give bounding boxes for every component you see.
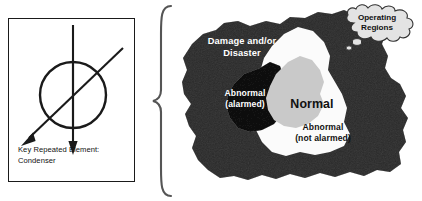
operating-regions-thought-cloud: Operating Regions — [338, 2, 422, 52]
thought-cloud-shape — [338, 2, 422, 52]
cloud-bumps — [347, 5, 413, 42]
cloud-tail-bubbles — [346, 39, 362, 51]
grouping-brace — [150, 4, 174, 198]
key-caption-line-1: Key Repeated Element: — [18, 145, 130, 156]
brace-path — [153, 6, 171, 196]
figure-root: Key Repeated Element: Condenser — [0, 0, 422, 201]
diagonal-flow-arrowhead — [21, 133, 36, 146]
key-panel-caption: Key Repeated Element: Condenser — [18, 145, 130, 166]
key-repeated-element-box: Key Repeated Element: Condenser — [8, 18, 135, 182]
operating-regions-blob: Damage and/or Disaster Abnormal (alarmed… — [172, 0, 422, 201]
key-caption-line-2: Condenser — [18, 156, 130, 167]
